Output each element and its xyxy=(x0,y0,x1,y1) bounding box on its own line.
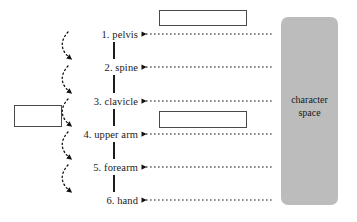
chain-label-clavicle: 3. clavicle xyxy=(38,96,138,107)
chain-label-forearm: 5. forearm xyxy=(38,162,138,173)
chain-label-hand: 6. hand xyxy=(38,195,138,206)
diagram-canvas: character space xyxy=(0,0,357,222)
chain-label-upper-arm: 4. upper arm xyxy=(38,129,138,140)
chain-label-pelvis: 1. pelvis xyxy=(38,29,138,40)
chain-label-spine: 2. spine xyxy=(38,62,138,73)
mapping-arrows xyxy=(142,34,272,200)
